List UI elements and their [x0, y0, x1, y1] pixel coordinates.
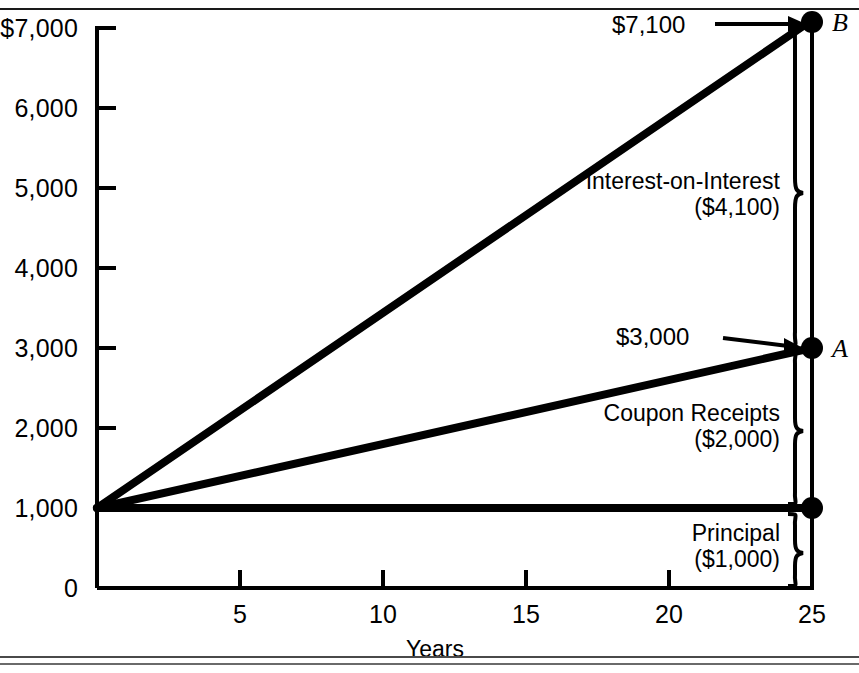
y-tick-label-5000: 5,000: [0, 176, 78, 201]
brace-coupon-receipts: [788, 352, 803, 504]
page-rule-bottom-secondary: [0, 663, 859, 665]
data-point-a: [801, 337, 823, 359]
y-tick-label-6000: 6,000: [0, 96, 78, 121]
brace-label-interest-on-interest-line2: ($4,100): [470, 194, 780, 220]
x-tick-label-20: 20: [634, 602, 704, 627]
y-tick-label-2000: 2,000: [0, 416, 78, 441]
y-tick-label-1000: 1,000: [0, 496, 78, 521]
x-tick-label-15: 15: [491, 602, 561, 627]
callout-value-b: $7,100: [612, 13, 685, 37]
y-tick-label-0: 0: [0, 576, 78, 601]
y-tick-label-7000: $7,000: [0, 16, 78, 41]
brace-label-principal-line2: ($1,000): [470, 546, 780, 572]
point-label-a: A: [832, 336, 848, 362]
brace-label-principal: Principal ($1,000): [470, 520, 780, 573]
page-rule-bottom-primary: [0, 656, 859, 658]
y-tick-label-3000: 3,000: [0, 336, 78, 361]
brace-label-coupon-receipts: Coupon Receipts ($2,000): [470, 400, 780, 453]
brace-label-coupon-receipts-line1: Coupon Receipts: [604, 400, 780, 426]
brace-principal: [788, 514, 803, 586]
brace-label-interest-on-interest-line1: Interest-on-Interest: [586, 168, 780, 194]
brace-label-coupon-receipts-line2: ($2,000): [470, 426, 780, 452]
point-label-b: B: [832, 10, 848, 36]
brace-interest-on-interest: [788, 26, 803, 346]
brace-label-principal-line1: Principal: [692, 520, 780, 546]
figure-container: $7,000 6,000 5,000 4,000 3,000 2,000 1,0…: [0, 0, 859, 673]
y-tick-label-4000: 4,000: [0, 256, 78, 281]
brace-label-interest-on-interest: Interest-on-Interest ($4,100): [470, 168, 780, 221]
data-point-b: [801, 11, 823, 33]
data-point-principal: [801, 497, 823, 519]
x-tick-label-25: 25: [777, 602, 847, 627]
callout-arrow-b: [715, 16, 806, 32]
x-tick-label-5: 5: [205, 602, 275, 627]
x-tick-label-10: 10: [348, 602, 418, 627]
y-axis-ticks: [97, 28, 116, 508]
callout-value-a: $3,000: [616, 325, 689, 349]
